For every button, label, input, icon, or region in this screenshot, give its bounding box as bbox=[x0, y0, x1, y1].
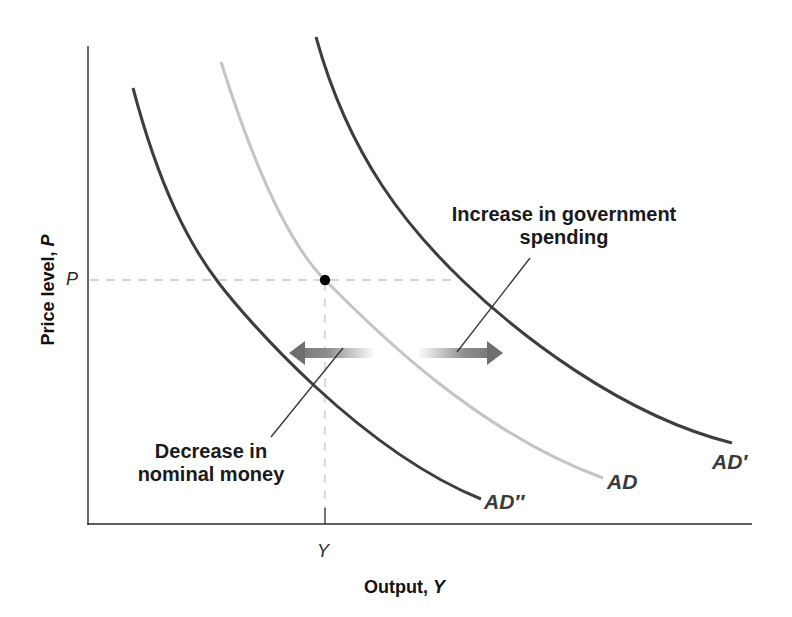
x-axis-title: Output, Y bbox=[364, 577, 445, 598]
y-axis-title-text: Price level, bbox=[38, 246, 58, 345]
equilibrium-point bbox=[320, 275, 330, 285]
gov-spending-annotation: Increase in government spending bbox=[414, 203, 714, 249]
chart-canvas bbox=[0, 0, 792, 617]
nominal-money-line2: nominal money bbox=[116, 463, 306, 486]
nominal-money-leader-line bbox=[271, 348, 343, 437]
ad-label: AD bbox=[607, 470, 637, 494]
price-tick-label: P bbox=[66, 269, 78, 290]
ad-double-prime-curve bbox=[133, 88, 481, 499]
y-axis-title: Price level, P bbox=[38, 234, 59, 345]
nominal-money-line1: Decrease in bbox=[116, 440, 306, 463]
ad-curve bbox=[221, 62, 603, 478]
x-axis-title-text: Output, bbox=[364, 577, 433, 597]
ad-double-prime-label: AD″ bbox=[484, 490, 524, 514]
gov-spending-line2: spending bbox=[414, 226, 714, 249]
y-axis-title-variable: P bbox=[38, 234, 58, 246]
output-tick-label: Y bbox=[317, 541, 329, 562]
nominal-money-annotation: Decrease in nominal money bbox=[116, 440, 306, 486]
gov-spending-line1: Increase in government bbox=[414, 203, 714, 226]
right-shift-arrow bbox=[418, 341, 503, 365]
ad-prime-label: AD′ bbox=[712, 450, 747, 474]
x-axis-title-variable: Y bbox=[433, 577, 445, 597]
gov-spending-leader-line bbox=[457, 258, 530, 352]
